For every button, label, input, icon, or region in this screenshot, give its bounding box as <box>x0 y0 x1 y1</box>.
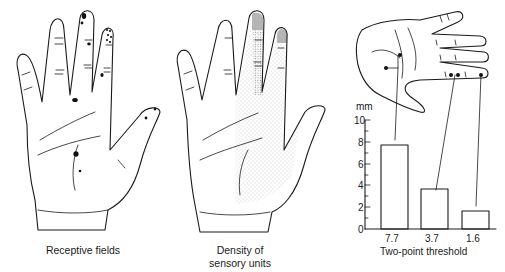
svg-text:4: 4 <box>358 180 364 191</box>
bar-fingertip <box>462 211 489 229</box>
hand-receptive-fields <box>17 11 160 230</box>
bar-label-1: 7.7 <box>385 233 399 244</box>
hand-density <box>177 11 325 232</box>
caption-receptive-fields: Receptive fields <box>28 244 138 257</box>
svg-text:6: 6 <box>358 159 364 170</box>
hand-two-point <box>356 12 488 206</box>
bar-palm <box>381 145 408 229</box>
svg-text:8: 8 <box>358 137 364 148</box>
bar-label-3: 1.6 <box>466 233 480 244</box>
svg-text:10: 10 <box>354 115 366 126</box>
caption-density-line1: Density of <box>200 244 280 257</box>
bar-chart: mm 10 8 6 4 2 0 7.7 3.7 1.6 Two-point th… <box>354 101 496 257</box>
svg-text:0: 0 <box>358 224 364 235</box>
y-ticks: 10 8 6 4 2 0 <box>354 115 370 235</box>
y-axis-unit: mm <box>356 101 373 112</box>
bar-label-2: 3.7 <box>425 233 439 244</box>
bar-finger-base <box>421 189 448 229</box>
caption-density: Density of sensory units <box>200 244 280 270</box>
caption-density-line2: sensory units <box>200 257 280 270</box>
figure-canvas: mm 10 8 6 4 2 0 7.7 3.7 1.6 Two-point th… <box>0 0 505 272</box>
svg-text:2: 2 <box>358 202 364 213</box>
x-axis-label: Two-point threshold <box>380 246 467 257</box>
